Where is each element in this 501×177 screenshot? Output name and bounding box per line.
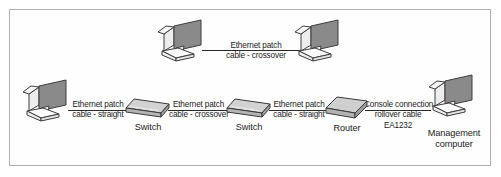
- computer-icon: [293, 18, 347, 64]
- router-label: Router: [317, 123, 377, 134]
- router-icon[interactable]: [324, 94, 370, 124]
- device-label-text: Router: [317, 123, 377, 134]
- computer-icon: [427, 73, 481, 119]
- switch-label-2: Switch: [219, 122, 279, 133]
- cable-label-switch1-to-switch2: Ethernet patch cable - crossover: [169, 100, 228, 121]
- management-computer-label: Management computer: [415, 128, 493, 150]
- cable-label-line1: Ethernet patch: [208, 41, 304, 51]
- cable-label-line1: Ethernet patch: [169, 100, 228, 110]
- cable-label-pc-to-switch1: Ethernet patch cable - straight: [70, 100, 126, 121]
- switch-icon: [225, 96, 273, 122]
- cable-label-line2: cable - crossover: [208, 51, 304, 61]
- router-icon: [324, 94, 370, 124]
- switch-icon-1[interactable]: [124, 96, 172, 122]
- device-label-text: Switch: [118, 122, 178, 133]
- device-label-line1: Management: [415, 128, 493, 139]
- diagram-frame: Ethernet patch cable - crossover: [9, 9, 491, 166]
- computer-icon-top-left[interactable]: [156, 18, 210, 64]
- cable-label-line1: Ethernet patch: [70, 100, 126, 110]
- computer-icon-management[interactable]: [427, 73, 481, 119]
- computer-icon-top-right[interactable]: [293, 18, 347, 64]
- switch-label-1: Switch: [118, 122, 178, 133]
- cable-label-line2: cable - crossover: [169, 110, 228, 120]
- cable-label-line1: Console connection: [364, 100, 432, 110]
- network-topology-diagram: Ethernet patch cable - crossover: [0, 0, 501, 177]
- cable-label-switch2-to-router: Ethernet patch cable - straight: [270, 100, 328, 121]
- cable-label-line2: rollover cable: [364, 110, 432, 120]
- computer-icon: [21, 78, 75, 124]
- cable-label-line1: Ethernet patch: [270, 100, 328, 110]
- cable-label-line2: cable - straight: [270, 110, 328, 120]
- computer-icon: [156, 18, 210, 64]
- computer-icon-left[interactable]: [21, 78, 75, 124]
- device-label-text: Switch: [219, 122, 279, 133]
- switch-icon: [124, 96, 172, 122]
- cable-label-line2: cable - straight: [70, 110, 126, 120]
- switch-icon-2[interactable]: [225, 96, 273, 122]
- cable-label-top-crossover: Ethernet patch cable - crossover: [208, 41, 304, 62]
- device-label-line2: computer: [415, 139, 493, 150]
